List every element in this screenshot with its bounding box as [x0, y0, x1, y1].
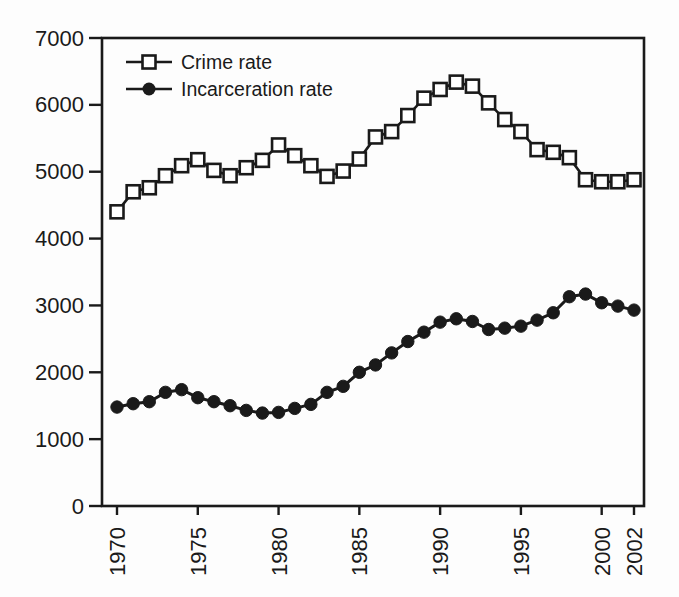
- x-tick-label: 1995: [509, 527, 534, 576]
- crime-rate-point: [466, 80, 479, 93]
- crime-rate-point: [531, 143, 544, 156]
- y-tick-label: 1000: [35, 427, 84, 452]
- incarceration-rate-point: [321, 386, 333, 398]
- incarceration-rate-point: [272, 406, 284, 418]
- incarceration-rate-point: [385, 347, 397, 359]
- axes: 0100020003000400050006000700019701975198…: [35, 26, 647, 577]
- y-tick-label: 7000: [35, 26, 84, 51]
- incarceration-rate-point: [305, 398, 317, 410]
- incarceration-rate-point: [289, 402, 301, 414]
- crime-rate-point: [611, 175, 624, 188]
- incarceration-rate-point: [208, 396, 220, 408]
- crime-rate-point: [417, 92, 430, 105]
- incarceration-rate-point: [434, 316, 446, 328]
- incarceration-rate-point: [353, 366, 365, 378]
- incarceration-rate-point: [579, 288, 591, 300]
- crime-rate-point: [385, 125, 398, 138]
- crime-rate-point: [240, 161, 253, 174]
- incarceration-rate-point: [240, 404, 252, 416]
- legend-label-crime-rate: Crime rate: [181, 51, 272, 73]
- crime-vs-incarceration-figure: 0100020003000400050006000700019701975198…: [0, 0, 679, 597]
- incarceration-rate-point: [515, 320, 527, 332]
- incarceration-rate-point: [224, 400, 236, 412]
- incarceration-rate-point: [531, 314, 543, 326]
- chart-canvas: 0100020003000400050006000700019701975198…: [0, 0, 679, 597]
- incarceration-rate-point: [175, 383, 187, 395]
- legend: Crime rate Incarceration rate: [126, 51, 333, 100]
- incarceration-rate-point: [256, 407, 268, 419]
- crime-rate-point: [337, 165, 350, 178]
- crime-rate-point: [143, 181, 156, 194]
- crime-rate-point: [579, 173, 592, 186]
- series-layer: [111, 76, 641, 420]
- crime-rate-point: [498, 113, 511, 126]
- y-tick-label: 4000: [35, 226, 84, 251]
- legend-marker-open-square-icon: [143, 56, 156, 69]
- crime-rate-point: [434, 83, 447, 96]
- crime-rate-point: [304, 159, 317, 172]
- crime-rate-point: [224, 169, 237, 182]
- incarceration-rate-point: [111, 401, 123, 413]
- x-tick-label: 1975: [186, 527, 211, 576]
- incarceration-rate-point: [192, 391, 204, 403]
- crime-rate-point: [111, 205, 124, 218]
- y-tick-label: 5000: [35, 159, 84, 184]
- incarceration-rate-point: [547, 307, 559, 319]
- y-tick-label: 6000: [35, 92, 84, 117]
- x-tick-label: 1980: [267, 527, 292, 576]
- crime-rate-point: [127, 185, 140, 198]
- crime-rate-point: [288, 149, 301, 162]
- crime-rate-point: [450, 76, 463, 89]
- incarceration-rate-point: [450, 313, 462, 325]
- incarceration-rate-point: [159, 386, 171, 398]
- incarceration-rate-point: [482, 323, 494, 335]
- crime-rate-point: [595, 175, 608, 188]
- crime-rate-point: [401, 109, 414, 122]
- legend-label-incarceration-rate: Incarceration rate: [181, 78, 333, 100]
- crime-rate-point: [563, 151, 576, 164]
- x-tick-label: 2000: [590, 527, 615, 576]
- crime-rate-point: [547, 146, 560, 159]
- incarceration-rate-point: [466, 315, 478, 327]
- legend-marker-filled-circle-icon: [143, 83, 156, 96]
- incarceration-rate-point: [337, 380, 349, 392]
- incarceration-rate-point: [563, 291, 575, 303]
- incarceration-rate-point: [402, 335, 414, 347]
- crime-rate-point: [159, 169, 172, 182]
- x-tick-label: 1990: [428, 527, 453, 576]
- crime-rate-point: [353, 153, 366, 166]
- x-tick-label: 1970: [105, 527, 130, 576]
- x-tick-label: 2002: [622, 527, 647, 576]
- crime-rate-point: [321, 170, 334, 183]
- crime-rate-point: [256, 154, 269, 167]
- y-tick-label: 3000: [35, 293, 84, 318]
- x-tick-label: 1985: [347, 527, 372, 576]
- incarceration-rate-point: [418, 326, 430, 338]
- crime-rate-point: [628, 173, 641, 186]
- crime-rate-point: [482, 96, 495, 109]
- incarceration-rate-point: [595, 297, 607, 309]
- crime-rate-point: [514, 125, 527, 138]
- crime-rate-point: [175, 159, 188, 172]
- incarceration-rate-point: [628, 304, 640, 316]
- incarceration-rate-point: [499, 322, 511, 334]
- incarceration-rate-point: [612, 300, 624, 312]
- incarceration-rate-point: [369, 359, 381, 371]
- crime-rate-point: [207, 164, 220, 177]
- crime-rate-point: [191, 153, 204, 166]
- plot-frame: [102, 38, 644, 506]
- crime-rate-point: [272, 138, 285, 151]
- crime-rate-point: [369, 130, 382, 143]
- y-tick-label: 2000: [35, 360, 84, 385]
- y-tick-label: 0: [72, 494, 84, 519]
- incarceration-rate-point: [143, 396, 155, 408]
- incarceration-rate-point: [127, 398, 139, 410]
